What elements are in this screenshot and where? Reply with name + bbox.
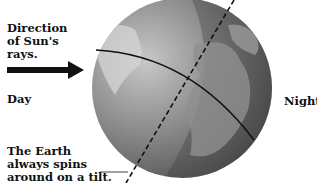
tilt-note-line-3: around on a tilt.: [7, 171, 112, 183]
globe: [92, 0, 280, 183]
sun-rays-label: Direction of Sun's rays.: [7, 22, 67, 61]
tilt-note: The Earth always spins around on a tilt.: [7, 145, 112, 183]
sun-rays-line-3: rays.: [7, 48, 67, 61]
sun-rays-arrow: [7, 61, 84, 79]
night-label: Night: [284, 95, 317, 108]
day-label: Day: [7, 93, 31, 106]
